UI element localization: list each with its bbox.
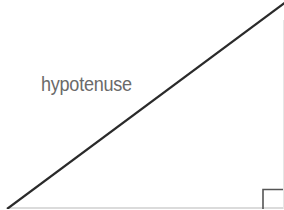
right-angle-marker	[263, 190, 284, 210]
triangle-diagram	[0, 0, 284, 209]
hypotenuse-line	[7, 2, 284, 209]
hypotenuse-label: hypotenuse	[41, 72, 132, 96]
